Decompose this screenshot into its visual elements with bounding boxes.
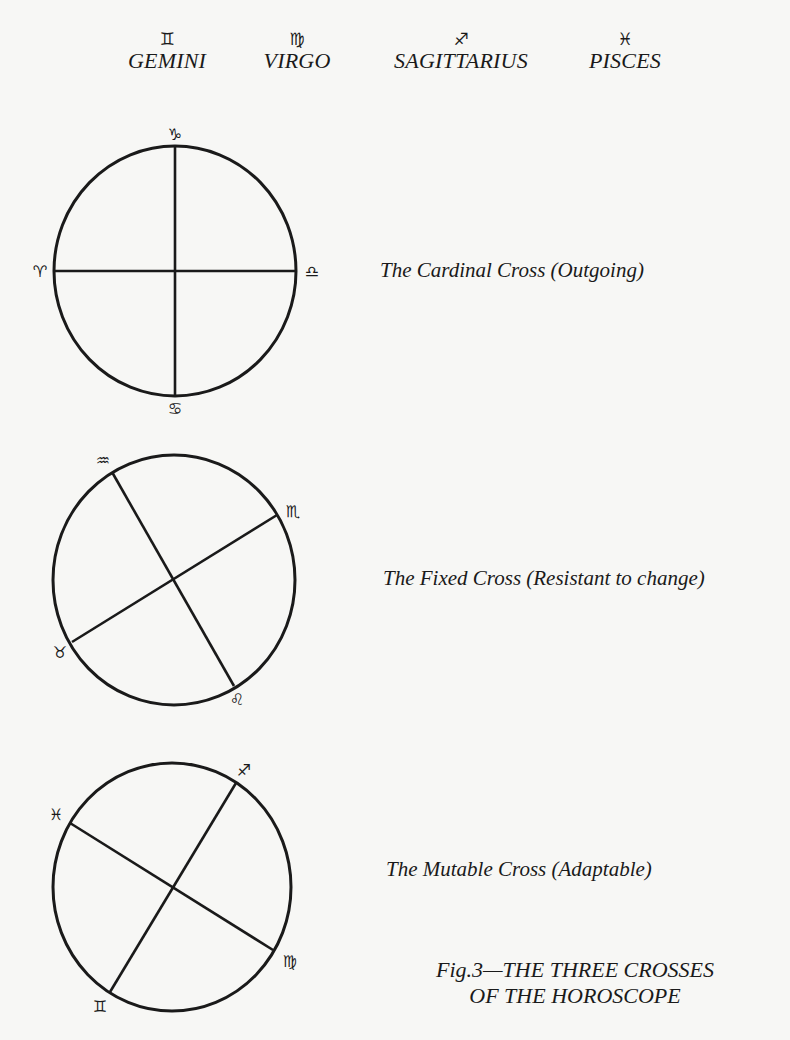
figure-caption-line-1: Fig.3—THE THREE CROSSES — [410, 957, 740, 983]
libra-icon: ♎ — [305, 262, 319, 281]
pisces-icon: ♓ — [49, 805, 63, 824]
cardinal-cross-diagram: ♑ ♈ ♎ ♋ — [33, 125, 319, 418]
fixed-axis-taurus-scorpio — [72, 515, 277, 642]
fixed-cross-diagram: ♒ ♏ ♉ ♌ — [53, 451, 300, 709]
mutable-cross-caption: The Mutable Cross (Adaptable) — [386, 857, 652, 881]
figure-caption-line-2: OF THE HOROSCOPE — [410, 983, 740, 1009]
scorpio-icon: ♏ — [286, 502, 300, 521]
leo-icon: ♌ — [230, 690, 244, 709]
fixed-cross-caption: The Fixed Cross (Resistant to change) — [383, 566, 705, 590]
cardinal-cross-caption: The Cardinal Cross (Outgoing) — [380, 258, 644, 282]
figure-caption: Fig.3—THE THREE CROSSES OF THE HOROSCOPE — [410, 957, 740, 1009]
aries-icon: ♈ — [33, 262, 47, 281]
figure-page: ♊ GEMINI ♍ VIRGO ♐ SAGITTARIUS ♓ PISCES … — [0, 0, 790, 1040]
aquarius-icon: ♒ — [96, 451, 110, 470]
cancer-icon: ♋ — [168, 399, 182, 418]
crosses-diagram: ♑ ♈ ♎ ♋ ♒ ♏ ♉ ♌ ♓ ♐ ♊ ♍ — [0, 0, 790, 1040]
capricorn-icon: ♑ — [168, 125, 182, 144]
mutable-axis-pisces-virgo — [70, 823, 273, 950]
gemini-icon: ♊ — [93, 997, 107, 1016]
taurus-icon: ♉ — [53, 643, 67, 662]
mutable-axis-sagittarius-gemini — [110, 783, 236, 992]
mutable-cross-diagram: ♓ ♐ ♊ ♍ — [49, 761, 297, 1016]
sagittarius-icon: ♐ — [237, 761, 251, 780]
virgo-icon: ♍ — [283, 952, 297, 971]
